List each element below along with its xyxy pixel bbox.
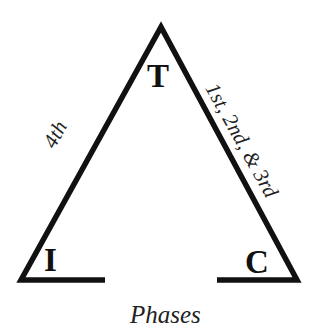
triangle-diagram: T I C 4th 1st, 2nd, & 3rd Phases bbox=[0, 0, 317, 333]
vertex-label-top: T bbox=[147, 60, 169, 93]
vertex-label-bottom-left: I bbox=[44, 244, 57, 277]
diagram-caption: Phases bbox=[130, 302, 201, 327]
vertex-label-bottom-right: C bbox=[245, 246, 269, 279]
